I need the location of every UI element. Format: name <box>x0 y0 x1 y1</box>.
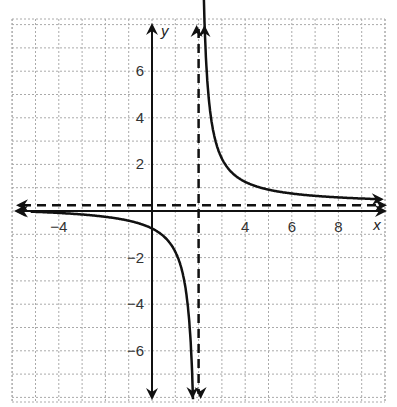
x-tick-label: 8 <box>334 218 342 235</box>
y-tick-label: −4 <box>127 295 144 312</box>
x-tick-label: −4 <box>50 218 67 235</box>
y-tick-label: −6 <box>127 342 144 359</box>
function-curves <box>16 0 384 399</box>
axes <box>14 23 387 400</box>
left-branch-curve <box>31 212 193 400</box>
y-tick-label: 6 <box>136 62 144 79</box>
rational-function-graph: −4468642−2−4−6xy <box>0 0 397 407</box>
x-tick-label: 6 <box>288 218 296 235</box>
y-tick-label: 4 <box>136 109 144 126</box>
y-tick-label: −2 <box>127 249 144 266</box>
x-tick-label: 4 <box>241 218 249 235</box>
tick-labels: −4468642−2−4−6xy <box>50 22 381 359</box>
right-branch-curve <box>204 0 382 199</box>
y-tick-label: 2 <box>136 155 144 172</box>
x-axis-label: x <box>372 216 381 233</box>
